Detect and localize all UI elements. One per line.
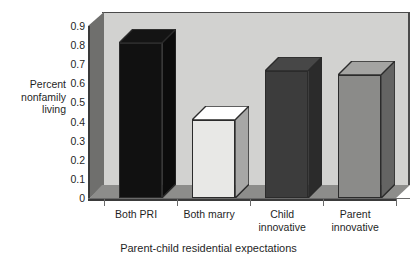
y-axis-tick-label: 0.7 — [58, 59, 85, 70]
y-axis-tick-label: 0.3 — [58, 135, 85, 146]
bar — [265, 57, 309, 198]
y-axis-tick-label: 0.5 — [58, 97, 85, 108]
x-axis-tick-mark — [323, 198, 324, 206]
bar-side-face — [235, 106, 249, 198]
x-axis-tick-label: Child innovative — [246, 208, 319, 233]
x-axis-title: Parent-child residential expectations — [0, 242, 417, 254]
y-axis-tick-label: 0.2 — [58, 154, 85, 165]
x-axis-tick-label: Both marry — [173, 208, 246, 221]
y-axis-tick-label: 0.9 — [58, 21, 85, 32]
x-axis-tick-mark — [104, 198, 105, 206]
x-axis-tick-mark — [177, 198, 178, 206]
x-axis-tick-mark — [250, 198, 251, 206]
bar-side-face — [308, 57, 322, 198]
x-axis-tick-mark — [396, 198, 397, 206]
y-axis-tick-label: 0.4 — [58, 116, 85, 127]
y-axis-tick-label: 0 — [58, 193, 85, 204]
bar — [338, 61, 382, 198]
x-axis-tick-label: Both PRI — [100, 208, 173, 221]
y-axis-title: Percent nonfamily living — [0, 78, 66, 116]
x-axis-tick-label: Parent innovative — [319, 208, 392, 233]
bar-front-face — [119, 43, 163, 198]
bar-front-face — [192, 120, 236, 198]
bar — [192, 106, 236, 198]
x-axis-line — [88, 198, 410, 199]
y-axis-tick-labels: 0.90.80.70.60.50.40.30.20.10 — [58, 8, 85, 203]
bar-chart-figure: Percent nonfamily living 0.90.80.70.60.5… — [0, 0, 417, 276]
bar-front-face — [265, 71, 309, 198]
bar — [119, 29, 163, 198]
plot-left-wall-edge — [88, 26, 90, 200]
plot-area — [88, 12, 410, 200]
y-axis-tick-label: 0.1 — [58, 173, 85, 184]
bar-side-face — [162, 29, 176, 198]
plot-left-wall — [88, 12, 104, 200]
bar-front-face — [338, 75, 382, 198]
y-axis-tick-label: 0.8 — [58, 40, 85, 51]
y-axis-tick-label: 0.6 — [58, 78, 85, 89]
bar-side-face — [381, 61, 395, 198]
